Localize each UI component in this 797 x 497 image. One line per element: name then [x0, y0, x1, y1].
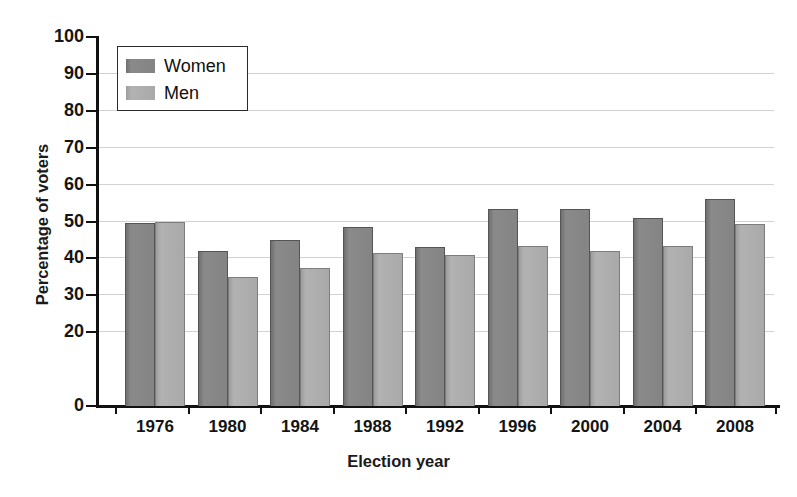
bar-men-1980 — [228, 277, 258, 406]
bar-group — [488, 36, 548, 406]
bar-women-1996 — [488, 209, 518, 406]
legend-item-men: Men — [126, 79, 247, 106]
bar-women-1980 — [198, 251, 228, 406]
y-tick-label: 20 — [38, 322, 84, 340]
bar-group — [270, 36, 330, 406]
x-tick-mark — [478, 405, 480, 414]
y-axis-tick-labels: 02030405060708090100 — [28, 0, 84, 497]
bar-chart-figure: Percentage of voters 0203040506070809010… — [0, 0, 797, 497]
x-tick-mark — [115, 405, 117, 414]
bar-men-2008 — [735, 224, 765, 406]
chart-legend: Women Men — [117, 46, 248, 111]
bar-group — [415, 36, 475, 406]
x-tick-label: 2008 — [690, 418, 780, 435]
y-tick-label: 50 — [38, 212, 84, 230]
x-tick-mark — [623, 405, 625, 414]
bar-group — [633, 36, 693, 406]
bar-women-1976 — [125, 223, 155, 406]
y-tick-label: 70 — [38, 138, 84, 156]
bar-women-1992 — [415, 247, 445, 406]
bar-group — [343, 36, 403, 406]
bar-group — [560, 36, 620, 406]
x-tick-mark — [333, 405, 335, 414]
x-tick-mark — [550, 405, 552, 414]
bar-women-2000 — [560, 209, 590, 406]
bar-men-1984 — [300, 268, 330, 406]
bar-men-1996 — [518, 246, 548, 406]
y-tick-label: 0 — [38, 396, 84, 414]
y-tick-label: 60 — [38, 175, 84, 193]
bar-women-1988 — [343, 227, 373, 406]
x-axis-title: Election year — [0, 452, 797, 471]
y-tick-label: 100 — [38, 27, 84, 45]
bar-women-1984 — [270, 240, 300, 406]
bar-women-2008 — [705, 199, 735, 406]
x-tick-mark — [188, 405, 190, 414]
x-tick-mark — [695, 405, 697, 414]
bar-men-2000 — [590, 251, 620, 406]
bar-group — [705, 36, 765, 406]
bar-men-2004 — [663, 246, 693, 406]
y-tick-label: 90 — [38, 64, 84, 82]
bar-women-2004 — [633, 218, 663, 406]
legend-swatch-men-icon — [126, 86, 155, 100]
legend-label-women: Women — [164, 57, 226, 75]
x-tick-mark — [775, 405, 777, 414]
legend-label-men: Men — [164, 84, 199, 102]
bar-men-1976 — [155, 222, 185, 407]
bar-men-1988 — [373, 253, 403, 406]
x-tick-mark — [260, 405, 262, 414]
legend-swatch-women-icon — [126, 59, 155, 73]
legend-item-women: Women — [126, 52, 247, 79]
y-tick-label: 30 — [38, 285, 84, 303]
y-tick-label: 40 — [38, 248, 84, 266]
x-tick-mark — [405, 405, 407, 414]
bar-men-1992 — [445, 255, 475, 406]
y-tick-label: 80 — [38, 101, 84, 119]
